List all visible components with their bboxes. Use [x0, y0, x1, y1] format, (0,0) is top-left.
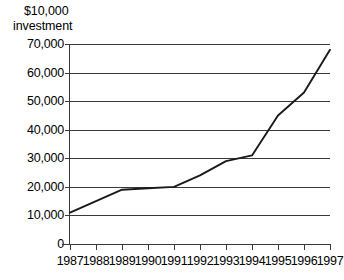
data-series-line	[0, 0, 344, 280]
series-polyline	[70, 50, 330, 213]
line-chart: $10,000 investment 70,00060,00050,00040,…	[0, 0, 344, 280]
